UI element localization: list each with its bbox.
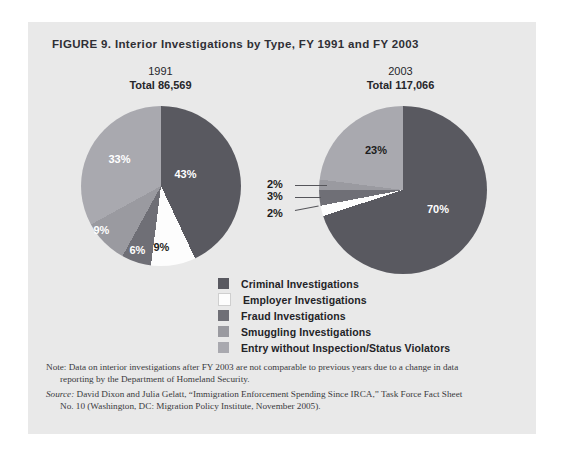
slice-label-1991-fraud: 6% [130, 244, 146, 256]
legend: Criminal Investigations Employer Investi… [218, 276, 518, 356]
pie-chart-2003: 2003 Total 117,066 70% 23% 2% 3% 2% [283, 64, 518, 289]
source-first-line: Source: David Dixon and Julia Gelatt, “I… [46, 389, 522, 401]
pie-year-1991: 1991 [48, 64, 273, 78]
pie-heading-2003: 2003 Total 117,066 [283, 64, 518, 92]
legend-label-employer: Employer Investigations [243, 294, 367, 306]
slice-label-1991-employer: 9% [154, 241, 170, 253]
slice-label-2003-employer: 2% [267, 207, 283, 219]
pie-year-2003: 2003 [283, 64, 518, 78]
slice-label-2003-criminal: 70% [427, 203, 449, 215]
note-block: Note: Data on interior investigations af… [46, 362, 522, 374]
note-text-line2: reporting by the Department of Homeland … [46, 374, 522, 386]
figure-notes: Note: Data on interior investigations af… [46, 362, 522, 412]
pie-chart-1991: 1991 Total 86,569 43% 9% 6% 9% 33% [48, 64, 273, 289]
leader-line-2003-b [295, 197, 321, 198]
note-lead: Note: [46, 362, 66, 372]
legend-label-fraud: Fraud Investigations [241, 310, 346, 322]
legend-label-smuggling: Smuggling Investigations [241, 326, 371, 338]
slice-label-1991-criminal: 43% [175, 168, 197, 180]
leader-line-2003-c [295, 205, 319, 211]
source-lead: Source: [46, 389, 74, 399]
figure-title: FIGURE 9. Interior Investigations by Typ… [52, 38, 419, 50]
pie-slices-2003 [319, 106, 487, 274]
leader-line-2003-a [295, 185, 327, 186]
figure-panel: FIGURE 9. Interior Investigations by Typ… [28, 22, 536, 434]
legend-swatch-ewi [218, 342, 229, 353]
pie-heading-1991: 1991 Total 86,569 [48, 64, 273, 92]
slice-label-2003-fraud: 3% [267, 190, 283, 202]
legend-swatch-criminal [218, 278, 229, 289]
legend-swatch-smuggling [218, 326, 229, 337]
note-text: Data on interior investigations after FY… [66, 362, 458, 372]
legend-label-criminal: Criminal Investigations [241, 278, 359, 290]
legend-item-smuggling: Smuggling Investigations [218, 324, 518, 339]
legend-item-fraud: Fraud Investigations [218, 308, 518, 323]
legend-label-ewi: Entry without Inspection/Status Violator… [241, 342, 450, 354]
legend-item-criminal: Criminal Investigations [218, 276, 518, 291]
legend-swatch-fraud [218, 310, 229, 321]
source-text: David Dixon and Julia Gelatt, “Immigrati… [74, 389, 462, 399]
legend-swatch-employer [218, 293, 231, 306]
slice-label-2003-ewi: 23% [365, 144, 387, 156]
slice-label-2003-smuggling: 2% [267, 178, 283, 190]
source-text-line2: No. 10 (Washington, DC: Migration Policy… [46, 401, 522, 413]
legend-item-employer: Employer Investigations [218, 292, 518, 307]
slice-label-1991-smuggling: 9% [94, 224, 110, 236]
source-block: Source: David Dixon and Julia Gelatt, “I… [46, 389, 522, 412]
pie-total-2003: Total 117,066 [283, 78, 518, 92]
pie-total-1991: Total 86,569 [48, 78, 273, 92]
pie-graphic-2003: 70% 23% 2% 3% 2% [319, 106, 487, 274]
slice-label-1991-ewi: 33% [109, 153, 131, 165]
legend-item-ewi: Entry without Inspection/Status Violator… [218, 340, 518, 355]
pie-graphic-1991: 43% 9% 6% 9% 33% [81, 106, 241, 266]
